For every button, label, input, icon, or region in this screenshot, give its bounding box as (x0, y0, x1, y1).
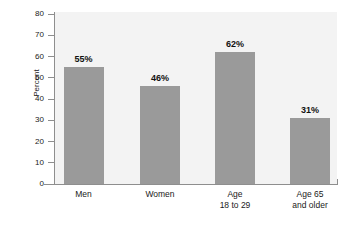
y-tick-mark (48, 14, 55, 15)
y-tick-label: 80 (14, 10, 44, 18)
bar-value-label: 55% (54, 54, 114, 64)
y-tick-label: 50 (14, 74, 44, 82)
y-tick-label: 20 (14, 138, 44, 146)
y-tick-label: 0 (14, 180, 44, 188)
x-category-label: Age 65 and older (265, 189, 350, 211)
bar-value-label: 46% (130, 73, 190, 83)
y-tick-mark (48, 184, 55, 185)
y-tick-mark (48, 99, 55, 100)
y-tick-label: 60 (14, 53, 44, 61)
y-tick-mark (48, 162, 55, 163)
y-axis-title: Percent (32, 53, 46, 113)
bar-value-label: 62% (205, 39, 265, 49)
y-tick-label: 10 (14, 159, 44, 167)
y-tick-mark (48, 141, 55, 142)
bar-chart: Percent 80706050403020100 55%46%62%31% M… (0, 0, 350, 225)
bar (140, 86, 180, 184)
y-tick-label: 70 (14, 31, 44, 39)
y-tick-mark (48, 35, 55, 36)
y-tick-mark (48, 77, 55, 78)
x-axis-end-tick (337, 179, 338, 185)
bar (64, 67, 104, 184)
y-tick-mark (48, 120, 55, 121)
x-axis-line (44, 184, 338, 185)
chart-title-cropped (0, 0, 350, 3)
y-tick-label: 40 (14, 95, 44, 103)
bar (290, 118, 330, 184)
bar (215, 52, 255, 184)
y-tick-label: 30 (14, 116, 44, 124)
bar-value-label: 31% (280, 105, 340, 115)
